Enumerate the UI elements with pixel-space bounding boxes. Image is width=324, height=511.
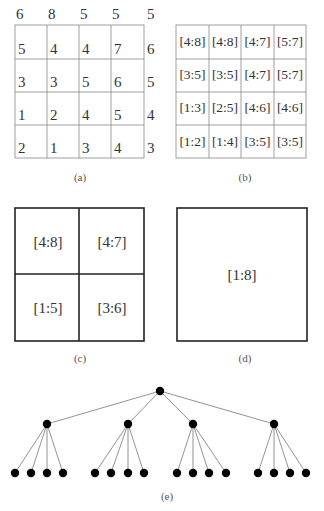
interval-cell: [4:8] bbox=[33, 234, 62, 250]
leaf-node bbox=[302, 469, 310, 477]
right-value: 5 bbox=[147, 74, 155, 90]
grid-cell: 7 bbox=[114, 41, 122, 57]
grid-cell: 4 bbox=[82, 41, 90, 57]
interval-cell: [5:7] bbox=[277, 67, 303, 82]
top-value: 8 bbox=[48, 6, 56, 22]
leaf-node bbox=[11, 469, 19, 477]
caption-e: (e) bbox=[161, 490, 174, 503]
leaf-node bbox=[27, 469, 35, 477]
mid-node bbox=[43, 420, 51, 428]
interval-cell: [4:6] bbox=[277, 100, 303, 115]
grid-cell: 5 bbox=[82, 74, 90, 90]
caption-c: (c) bbox=[74, 352, 87, 365]
leaf-node bbox=[205, 469, 213, 477]
grid-cell: 3 bbox=[18, 74, 26, 90]
grid-cell: 2 bbox=[50, 107, 58, 123]
grid-cell: 1 bbox=[50, 140, 58, 156]
interval-cell: [1:4] bbox=[212, 134, 238, 149]
leaf-node bbox=[107, 469, 115, 477]
panel-a-top-row: 6 8 5 5 5 bbox=[16, 6, 155, 22]
interval-cell: [3:5] bbox=[179, 67, 205, 82]
interval-cell: [1:3] bbox=[179, 100, 205, 115]
grid-cell: 3 bbox=[82, 140, 90, 156]
grid-cell: 2 bbox=[18, 140, 26, 156]
interval-label: [1:8] bbox=[227, 267, 256, 283]
leaf-node bbox=[124, 469, 132, 477]
interval-cell: [5:7] bbox=[277, 34, 303, 49]
leaf-node bbox=[254, 469, 262, 477]
grid-cell: 3 bbox=[50, 74, 58, 90]
panel-a-grid-lines bbox=[15, 25, 144, 158]
interval-cell: [4:7] bbox=[244, 67, 270, 82]
grid-cell: 5 bbox=[18, 41, 26, 57]
interval-cell: [4:6] bbox=[244, 100, 270, 115]
right-value: 3 bbox=[147, 140, 155, 156]
grid-cell: 4 bbox=[114, 140, 122, 156]
mid-node bbox=[124, 420, 132, 428]
interval-cell: [1:5] bbox=[33, 300, 62, 316]
root-node bbox=[156, 387, 164, 395]
grid-cell: 4 bbox=[50, 41, 58, 57]
panel-c-cells: [4:8] [4:7] [1:5] [3:6] bbox=[33, 234, 126, 316]
panel-a-cells: 5 4 4 7 3 3 5 6 1 2 4 5 2 1 3 4 bbox=[18, 41, 122, 156]
interval-cell: [4:7] bbox=[244, 34, 270, 49]
grid-cell: 1 bbox=[18, 107, 26, 123]
leaf-node bbox=[173, 469, 181, 477]
grid-cell: 4 bbox=[82, 107, 90, 123]
interval-cell: [3:5] bbox=[212, 67, 238, 82]
top-value: 5 bbox=[80, 6, 88, 22]
top-value: 5 bbox=[112, 6, 120, 22]
interval-cell: [4:8] bbox=[212, 34, 238, 49]
grid-cell: 5 bbox=[114, 107, 122, 123]
tree-nodes bbox=[11, 387, 310, 477]
right-value: 4 bbox=[147, 107, 155, 123]
leaf-node bbox=[286, 469, 294, 477]
mid-node bbox=[270, 420, 278, 428]
leaf-node bbox=[91, 469, 99, 477]
leaf-node bbox=[189, 469, 197, 477]
panel-b: [4:8] [4:8] [4:7] [5:7] [3:5] [3:5] [4:7… bbox=[176, 25, 306, 184]
right-value: 6 bbox=[147, 41, 155, 57]
interval-cell: [4:7] bbox=[97, 234, 126, 250]
top-value: 6 bbox=[16, 6, 24, 22]
tree-edges bbox=[15, 391, 306, 473]
interval-cell: [3:5] bbox=[277, 134, 303, 149]
caption-d: (d) bbox=[239, 352, 252, 365]
leaf-node bbox=[140, 469, 148, 477]
grid-cell: 6 bbox=[114, 74, 122, 90]
mid-node bbox=[189, 420, 197, 428]
caption-a: (a) bbox=[74, 171, 87, 184]
leaf-node bbox=[43, 469, 51, 477]
panel-c-grid-lines bbox=[15, 208, 144, 341]
panel-e-tree: (e) bbox=[11, 387, 310, 503]
leaf-node bbox=[59, 469, 67, 477]
panel-d: [1:8] (d) bbox=[177, 208, 307, 365]
panel-a-right-col: 6 5 4 3 bbox=[147, 41, 155, 156]
figure-canvas: 6 8 5 5 5 6 5 4 3 5 4 4 7 3 3 5 6 1 2 4 … bbox=[0, 0, 324, 511]
interval-cell: [1:2] bbox=[179, 134, 205, 149]
panel-c: [4:8] [4:7] [1:5] [3:6] (c) bbox=[15, 208, 144, 365]
interval-cell: [2:5] bbox=[212, 100, 238, 115]
leaf-node bbox=[270, 469, 278, 477]
interval-cell: [3:5] bbox=[244, 134, 270, 149]
interval-cell: [4:8] bbox=[179, 34, 205, 49]
caption-b: (b) bbox=[239, 171, 252, 184]
interval-cell: [3:6] bbox=[97, 300, 126, 316]
top-value: 5 bbox=[147, 6, 155, 22]
leaf-node bbox=[222, 469, 230, 477]
panel-a: 6 8 5 5 5 6 5 4 3 5 4 4 7 3 3 5 6 1 2 4 … bbox=[15, 6, 155, 184]
